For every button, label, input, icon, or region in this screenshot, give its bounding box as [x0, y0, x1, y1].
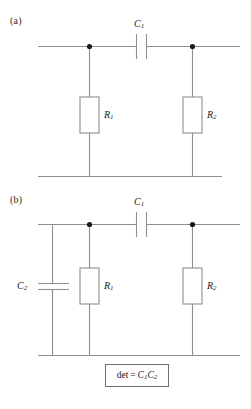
node-dot-b-left: [87, 222, 92, 227]
det-expression: det = C1C2: [117, 370, 157, 381]
node-dot-a-left: [87, 44, 92, 49]
resistor-r2-body-a: [183, 97, 202, 133]
resistor-r2-label-a: R2: [207, 109, 217, 121]
capacitor-c1-label-b: C1: [134, 196, 144, 208]
resistor-r2-body-b: [183, 268, 202, 304]
panel-b-label: (b): [10, 194, 22, 205]
node-dot-b-right: [190, 222, 195, 227]
resistor-r1-body-b: [80, 268, 99, 304]
panel-a-circuit: [0, 0, 251, 409]
figure-canvas: (a) C1 R1 R2 (b) C1 C2 R1 R2 det = C1C2: [0, 0, 251, 409]
capacitor-c2-label-b: C2: [17, 280, 27, 292]
resistor-r2-label-b: R2: [207, 280, 217, 292]
resistor-r1-label-b: R1: [104, 280, 114, 292]
determinant-annotation-box: det = C1C2: [105, 364, 169, 387]
resistor-r1-body-a: [80, 97, 99, 133]
node-dot-a-right: [190, 44, 195, 49]
capacitor-c1-label-a: C1: [134, 18, 144, 30]
panel-a-label: (a): [10, 15, 22, 26]
resistor-r1-label-a: R1: [104, 109, 114, 121]
